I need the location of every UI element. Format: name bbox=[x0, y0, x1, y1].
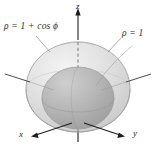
unit-sphere-surface bbox=[42, 67, 114, 129]
label-axis-y: y bbox=[133, 129, 137, 138]
label-outer-surface-equation: ρ = 1 + cos ϕ bbox=[4, 22, 58, 32]
label-axis-z: z bbox=[76, 2, 80, 11]
label-axis-x: x bbox=[19, 130, 23, 139]
x-axis-arrowhead bbox=[31, 132, 39, 138]
z-axis bbox=[75, 8, 80, 40]
math-figure: ρ = 1 + cos ϕ ρ = 1 z x y bbox=[0, 0, 156, 146]
y-axis-arrowhead bbox=[117, 132, 125, 138]
label-inner-surface-equation: ρ = 1 bbox=[122, 29, 143, 39]
leader-line-inner-label bbox=[108, 38, 121, 52]
leader-line-outer-label bbox=[36, 36, 50, 52]
